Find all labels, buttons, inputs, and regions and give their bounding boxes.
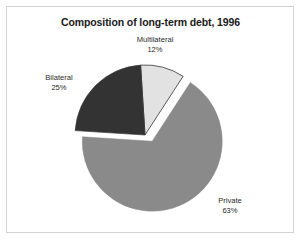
pie-label-bilateral-value: 25% [26, 83, 92, 93]
pie-label-multilateral: Multilateral 12% [110, 35, 200, 56]
pie-label-private-name: Private [200, 196, 260, 206]
pie-label-multilateral-value: 12% [110, 45, 200, 55]
pie-label-bilateral: Bilateral 25% [26, 73, 92, 94]
pie-label-private: Private 63% [200, 196, 260, 217]
pie-label-multilateral-name: Multilateral [110, 35, 200, 45]
pie-chart-figure: Composition of long-term debt, 1996 Mult… [0, 0, 301, 240]
pie-label-bilateral-name: Bilateral [26, 73, 92, 83]
pie-label-private-value: 63% [200, 206, 260, 216]
